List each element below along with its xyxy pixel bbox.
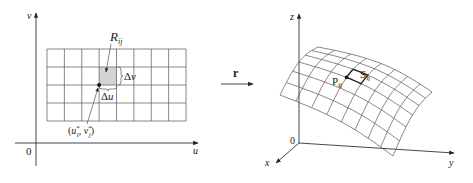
uv-plane-panel: v u 0 Rij Δv Δu (u*i, v*j) [15, 10, 198, 166]
delta-u-label: Δu [101, 90, 114, 102]
surface-area-parametric-diagram: v u 0 Rij Δv Δu (u*i, v*j) r z y x 0 Pij… [0, 0, 473, 183]
delta-v-brace [118, 67, 123, 85]
point-pointer [87, 88, 98, 124]
u-axis-label: u [193, 145, 198, 156]
surface-grid-line [393, 92, 432, 156]
z-axis-label: z [289, 11, 294, 22]
origin-3d-label: 0 [290, 135, 295, 146]
shaded-region-rij [99, 67, 116, 85]
surface-grid-line [280, 95, 393, 156]
pij-label: Pij [332, 75, 342, 89]
sij-label: Sij [360, 68, 370, 82]
surface-grid-line [381, 84, 420, 147]
mapping-r: r [221, 66, 253, 84]
xyz-space-panel: z y x 0 Pij Sij [264, 11, 454, 168]
parametric-surface [280, 47, 432, 156]
delta-v-label: Δv [124, 70, 136, 82]
x-axis [276, 143, 299, 163]
rij-label: Rij [109, 29, 123, 46]
point-uv-label: (u*i, v*j) [68, 124, 94, 139]
y-axis-label: y [448, 157, 454, 168]
y-axis [299, 143, 454, 153]
point-pij [345, 76, 349, 80]
surface-grid-line [286, 83, 399, 141]
surface-grid-line [305, 55, 419, 105]
v-axis-label: v [27, 10, 32, 21]
x-axis-label: x [264, 157, 270, 168]
uv-grid [47, 49, 186, 121]
origin-label: 0 [26, 145, 32, 157]
mapping-label: r [233, 66, 239, 80]
